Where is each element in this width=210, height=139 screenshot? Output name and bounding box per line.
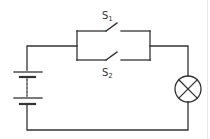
wire-bottom	[27, 102, 188, 130]
switch-s1	[77, 23, 150, 31]
wire-right-top	[150, 46, 188, 76]
battery-icon	[14, 72, 42, 104]
switch-s2-label: S2	[102, 67, 113, 80]
wire-left-top	[27, 46, 77, 70]
lamp-icon	[175, 76, 201, 102]
switch-s2	[77, 52, 150, 60]
switch-s1-label: S1	[102, 10, 113, 23]
edge-divider-line	[207, 0, 208, 139]
circuit-diagram: S1 S2	[0, 0, 210, 139]
